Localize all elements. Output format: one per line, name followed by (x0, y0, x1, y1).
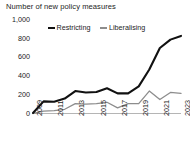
legend-label-liberalising: Liberalising (109, 24, 145, 32)
chart-legend: Restricting Liberalising (48, 24, 145, 32)
legend-swatch-liberalising (100, 27, 107, 28)
legend-item-restricting: Restricting (48, 24, 90, 32)
x-tick-label: 2015 (100, 100, 108, 116)
x-tick-label: 2013 (78, 100, 86, 116)
x-tick-label: 2009 (36, 100, 44, 116)
x-tick-label: 2017 (121, 100, 129, 116)
chart-figure: Number of new policy measures 0200400600… (0, 0, 190, 142)
x-tick-label: 2023 (184, 100, 190, 116)
x-tick-label: 2021 (163, 100, 171, 116)
legend-label-restricting: Restricting (57, 24, 91, 32)
x-axis-tick-labels: 20092011201320152017201920212023 (0, 0, 190, 142)
legend-swatch-restricting (48, 27, 55, 29)
x-tick-label: 2019 (142, 100, 150, 116)
x-tick-label: 2011 (57, 101, 65, 116)
legend-item-liberalising: Liberalising (100, 24, 145, 32)
